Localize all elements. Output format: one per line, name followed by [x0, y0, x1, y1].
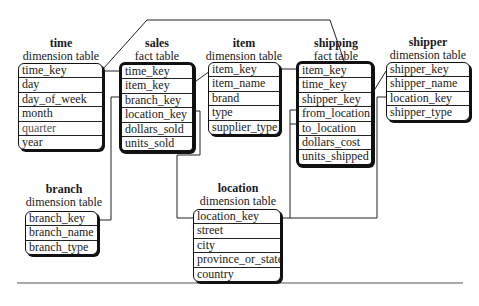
- shipping-field: dollars_cost: [299, 136, 371, 150]
- shipping-field: shipper_key: [299, 93, 371, 107]
- sales-fact-table: time_key item_key branch_key location_ke…: [119, 62, 195, 153]
- sales-field: time_key: [122, 65, 192, 79]
- sales-field: units_sold: [122, 137, 192, 150]
- branch-field: branch_key: [26, 212, 97, 226]
- time-table-title: time dimension table: [18, 37, 104, 63]
- shipper-dimension-table: shipper_key shipper_name location_key sh…: [386, 62, 470, 121]
- location-field: country: [194, 268, 280, 281]
- sales-field: dollars_sold: [122, 123, 192, 137]
- item-field: item_key: [209, 63, 279, 77]
- item-table-title: item dimension table: [205, 37, 283, 63]
- shipper-field: shipper_name: [387, 77, 469, 91]
- time-field: month: [19, 107, 102, 121]
- shipping-field: time_key: [299, 78, 371, 92]
- location-field: city: [194, 239, 280, 253]
- time-dimension-table: time_key day day_of_week month quarter y…: [18, 63, 103, 150]
- sales-field: location_key: [122, 108, 192, 122]
- shipper-field: shipper_key: [387, 63, 469, 77]
- location-field: province_or_state: [194, 253, 280, 267]
- item-field: brand: [209, 92, 279, 106]
- shipper-field: location_key: [387, 92, 469, 106]
- location-table-title: location dimension table: [195, 182, 281, 208]
- sales-field: item_key: [122, 79, 192, 93]
- location-field: location_key: [194, 210, 280, 224]
- time-field: day_of_week: [19, 93, 102, 107]
- shipping-field: to_location: [299, 122, 371, 136]
- time-field: quarter: [19, 122, 102, 136]
- shipper-table-title: shipper dimension table: [383, 36, 473, 62]
- shipping-table-title: shipping fact table: [295, 37, 377, 63]
- shipper-table-kind: dimension table: [383, 49, 473, 62]
- item-field: supplier_type: [209, 121, 279, 134]
- time-table-kind: dimension table: [18, 50, 104, 63]
- shipping-fact-table: item_key time_key shipper_key from_locat…: [296, 61, 374, 167]
- branch-field: branch_type: [26, 241, 97, 254]
- shipping-field: units_shipped: [299, 150, 371, 163]
- item-field: type: [209, 106, 279, 120]
- shipper-field: shipper_type: [387, 106, 469, 119]
- location-table-kind: dimension table: [195, 195, 281, 208]
- branch-table-kind: dimension table: [24, 196, 104, 209]
- location-dimension-table: location_key street city province_or_sta…: [193, 209, 281, 282]
- shipping-field: from_location: [299, 107, 371, 121]
- branch-table-title: branch dimension table: [24, 183, 104, 209]
- item-field: item_name: [209, 77, 279, 91]
- shipping-field: item_key: [299, 64, 371, 78]
- time-field: day: [19, 78, 102, 92]
- branch-field: branch_name: [26, 226, 97, 240]
- item-dimension-table: item_key item_name brand type supplier_t…: [208, 62, 280, 135]
- time-field: year: [19, 136, 102, 149]
- branch-dimension-table: branch_key branch_name branch_type: [25, 211, 98, 255]
- sales-field: branch_key: [122, 94, 192, 108]
- sales-table-title: sales fact table: [120, 37, 194, 63]
- time-field: time_key: [19, 64, 102, 78]
- location-field: street: [194, 224, 280, 238]
